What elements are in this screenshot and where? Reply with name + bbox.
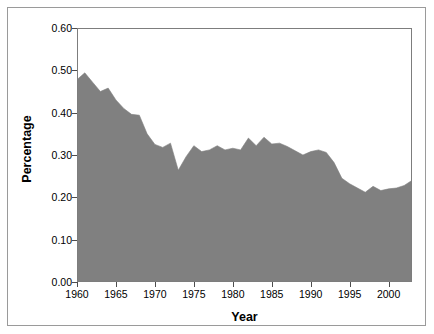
x-axis-title: Year [77,310,412,324]
x-tick-mark [389,282,390,287]
area-fill-path [78,73,411,281]
x-tick-label: 1970 [135,289,175,300]
x-tick-label: 1980 [213,289,253,300]
y-axis-title: Percentage [20,69,34,229]
x-tick-mark [350,282,351,287]
x-tick-mark [155,282,156,287]
x-tick-label: 2000 [369,289,409,300]
y-tick-label: 0.20 [28,192,72,202]
x-tick-label: 1990 [291,289,331,300]
x-tick-label: 1965 [96,289,136,300]
x-tick-mark [233,282,234,287]
x-tick-mark [116,282,117,287]
y-tick-label: 0.00 [28,277,72,287]
x-tick-mark [272,282,273,287]
x-tick-label: 1995 [330,289,370,300]
x-tick-label: 1975 [174,289,214,300]
y-tick-label: 0.30 [28,150,72,160]
y-tick-label: 0.10 [28,235,72,245]
area-series [78,29,411,281]
x-tick-label: 1960 [57,289,97,300]
chart-figure: 0.000.100.200.300.400.500.60 19601965197… [0,0,434,334]
y-tick-label: 0.50 [28,65,72,75]
x-tick-mark [77,282,78,287]
y-tick-label: 0.60 [28,23,72,33]
x-tick-mark [194,282,195,287]
plot-area [77,28,412,282]
x-tick-label: 1985 [252,289,292,300]
y-tick-label: 0.40 [28,108,72,118]
x-tick-mark [311,282,312,287]
